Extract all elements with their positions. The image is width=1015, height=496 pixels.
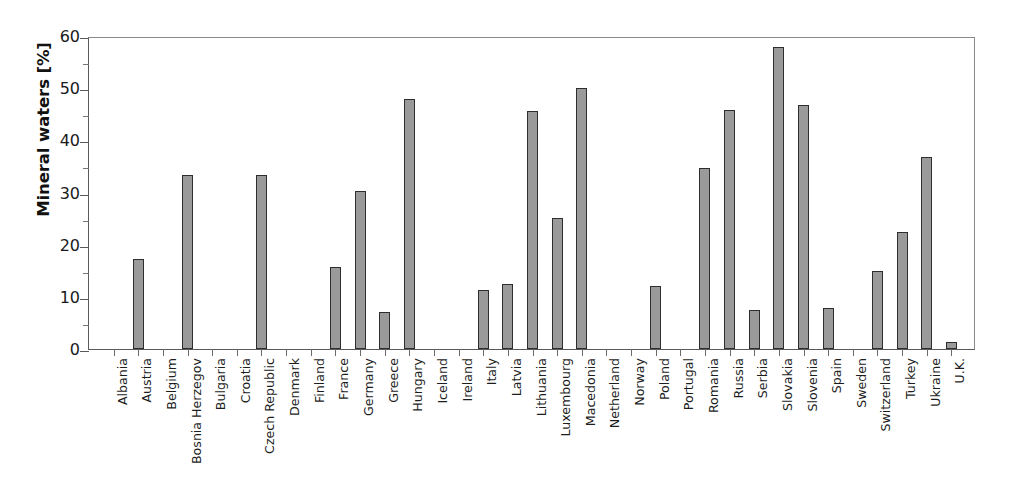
bar-spain xyxy=(823,308,834,349)
x-axis-label-latvia: Latvia xyxy=(507,358,520,396)
x-axis-label-sweden: Sweden xyxy=(852,358,865,408)
bar-serbia xyxy=(749,310,760,349)
x-axis-tick xyxy=(730,349,731,356)
x-axis-tick xyxy=(853,349,854,356)
y-axis-tick-label: 50 xyxy=(36,81,80,97)
x-axis-label-text: Finland xyxy=(314,358,327,403)
x-axis-tick xyxy=(409,349,410,356)
x-axis-label-text: Denmark xyxy=(289,358,302,416)
x-axis-label-text: Belgium xyxy=(166,358,179,410)
x-axis-label-text: Bulgaria xyxy=(215,358,228,410)
x-axis-tick xyxy=(828,349,829,356)
x-axis-label-bosnia-herzegov: Bosnia Herzegov xyxy=(187,358,200,464)
x-axis-label-lithuania: Lithuania xyxy=(532,358,545,416)
x-axis-tick xyxy=(138,349,139,356)
x-axis-tick xyxy=(804,349,805,356)
y-axis-tick-major xyxy=(80,38,89,39)
x-axis-label-text: Sweden xyxy=(856,358,869,408)
x-axis-tick xyxy=(212,349,213,356)
y-axis-tick-label: 60 xyxy=(36,29,80,45)
x-axis-tick xyxy=(705,349,706,356)
bar-u-k xyxy=(946,342,957,349)
y-axis-tick-major xyxy=(80,247,89,248)
bar-greece xyxy=(379,312,390,349)
bar-switzerland xyxy=(872,271,883,349)
x-axis-label-text: Ireland xyxy=(462,358,475,402)
y-axis-tick-label: 0 xyxy=(36,342,80,358)
x-axis-label-text: Hungary xyxy=(412,358,425,412)
x-axis-tick xyxy=(188,349,189,356)
x-axis-tick xyxy=(951,349,952,356)
bar-ukraine xyxy=(921,157,932,349)
x-axis-label-greece: Greece xyxy=(384,358,397,403)
x-axis-label-text: Albania xyxy=(117,358,130,405)
x-axis-tick-labels: AlbaniaAustriaBelgiumBosnia HerzegovBulg… xyxy=(88,358,975,493)
x-axis-label-text: U.K. xyxy=(954,358,967,383)
x-axis-tick xyxy=(606,349,607,356)
x-axis-label-text: Romania xyxy=(708,358,721,413)
x-axis-label-text: Russia xyxy=(733,358,746,399)
x-axis-label-text: Portugal xyxy=(683,358,696,410)
x-axis-tick xyxy=(656,349,657,356)
x-axis-label-serbia: Serbia xyxy=(753,358,766,398)
x-axis-tick xyxy=(385,349,386,356)
x-axis-label-norway: Norway xyxy=(630,358,643,406)
x-axis-label-poland: Poland xyxy=(655,358,668,400)
x-axis-tick xyxy=(360,349,361,356)
x-axis-tick xyxy=(902,349,903,356)
x-axis-label-text: Austria xyxy=(141,358,154,403)
x-axis-label-ireland: Ireland xyxy=(458,358,471,402)
y-axis-tick-labels: 0102030405060 xyxy=(32,37,80,350)
x-axis-label-text: Greece xyxy=(388,358,401,403)
x-axis-label-text: Luxembourg xyxy=(560,358,573,437)
x-axis-tick xyxy=(533,349,534,356)
x-axis-label-russia: Russia xyxy=(729,358,742,399)
x-axis-label-luxembourg: Luxembourg xyxy=(556,358,569,437)
y-axis-tick-label: 30 xyxy=(36,186,80,202)
x-axis-tick xyxy=(311,349,312,356)
x-axis-label-text: Latvia xyxy=(511,358,524,396)
x-axis-label-text: Bosnia Herzegov xyxy=(191,358,204,464)
x-axis-label-text: Iceland xyxy=(437,358,450,404)
bar-macedonia xyxy=(576,88,587,349)
x-axis-label-macedonia: Macedonia xyxy=(581,358,594,426)
x-axis-label-austria: Austria xyxy=(137,358,150,403)
x-axis-label-text: Serbia xyxy=(757,358,770,398)
bar-germany xyxy=(355,191,366,349)
x-axis-label-text: Poland xyxy=(659,358,672,400)
x-axis-label-text: Italy xyxy=(486,358,499,385)
bar-series xyxy=(89,38,974,349)
bar-hungary xyxy=(404,99,415,349)
x-axis-label-text: Slovakia xyxy=(782,358,795,411)
x-axis-tick xyxy=(286,349,287,356)
x-axis-label-croatia: Croatia xyxy=(236,358,249,403)
x-axis-label-text: Macedonia xyxy=(585,358,598,426)
bar-austria xyxy=(133,259,144,349)
x-axis-label-germany: Germany xyxy=(359,358,372,416)
x-axis-tick xyxy=(483,349,484,356)
x-axis-tick xyxy=(557,349,558,356)
y-axis-tick-minor xyxy=(83,221,89,222)
x-axis-tick xyxy=(434,349,435,356)
bar-bosnia-herzegov xyxy=(182,175,193,349)
x-axis-label-text: Netherland xyxy=(609,358,622,428)
y-axis-tick-minor xyxy=(83,116,89,117)
x-axis-label-romania: Romania xyxy=(704,358,717,413)
x-axis-tick xyxy=(163,349,164,356)
x-axis-label-text: Slovenia xyxy=(807,358,820,412)
x-axis-label-text: France xyxy=(338,358,351,400)
x-axis-label-denmark: Denmark xyxy=(285,358,298,416)
x-axis-label-czech-republic: Czech Republic xyxy=(260,358,273,454)
x-axis-label-spain: Spain xyxy=(827,358,840,393)
bar-slovenia xyxy=(798,105,809,349)
x-axis-label-albania: Albania xyxy=(113,358,126,405)
x-axis-label-text: Switzerland xyxy=(880,358,893,431)
x-axis-tick xyxy=(631,349,632,356)
bar-lithuania xyxy=(527,111,538,349)
x-axis-label-text: Spain xyxy=(831,358,844,393)
bar-turkey xyxy=(897,232,908,349)
x-axis-label-text: Croatia xyxy=(240,358,253,403)
x-axis-tick xyxy=(335,349,336,356)
x-axis-label-netherland: Netherland xyxy=(605,358,618,428)
x-axis-tick xyxy=(779,349,780,356)
